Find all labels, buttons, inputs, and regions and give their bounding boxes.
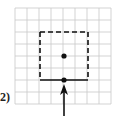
point-center xyxy=(61,53,66,58)
grid-figure xyxy=(0,0,114,116)
arrow-up-icon xyxy=(60,84,68,116)
problem-label: 2) xyxy=(0,91,10,103)
point-bottom-midpoint xyxy=(61,77,66,82)
